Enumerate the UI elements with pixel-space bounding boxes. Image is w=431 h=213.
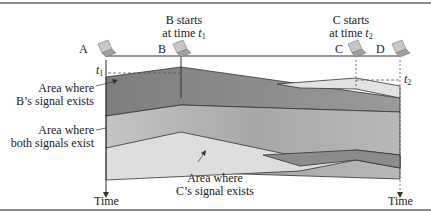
laptop-icon-d: [392, 40, 410, 57]
laptop-icon-a: [98, 40, 116, 57]
node-label-b: B: [158, 43, 166, 56]
b-signal-annotation: Area where B’s signal exists: [0, 82, 94, 108]
c-start-label: C starts at time t2: [325, 14, 377, 43]
left-time-label: Time: [94, 195, 119, 208]
node-label-c: C: [335, 43, 343, 56]
right-time-label: Time: [388, 195, 413, 208]
node-label-a: A: [79, 43, 88, 56]
b-start-label: B starts at time t1: [158, 14, 210, 43]
both-signals-annotation: Area where both signals exist: [0, 124, 94, 150]
node-label-d: D: [376, 43, 385, 56]
t1-marker: t1: [96, 64, 103, 80]
c-signal-annotation: Area where C’s signal exists: [160, 172, 270, 198]
t2-marker: t2: [404, 73, 411, 89]
